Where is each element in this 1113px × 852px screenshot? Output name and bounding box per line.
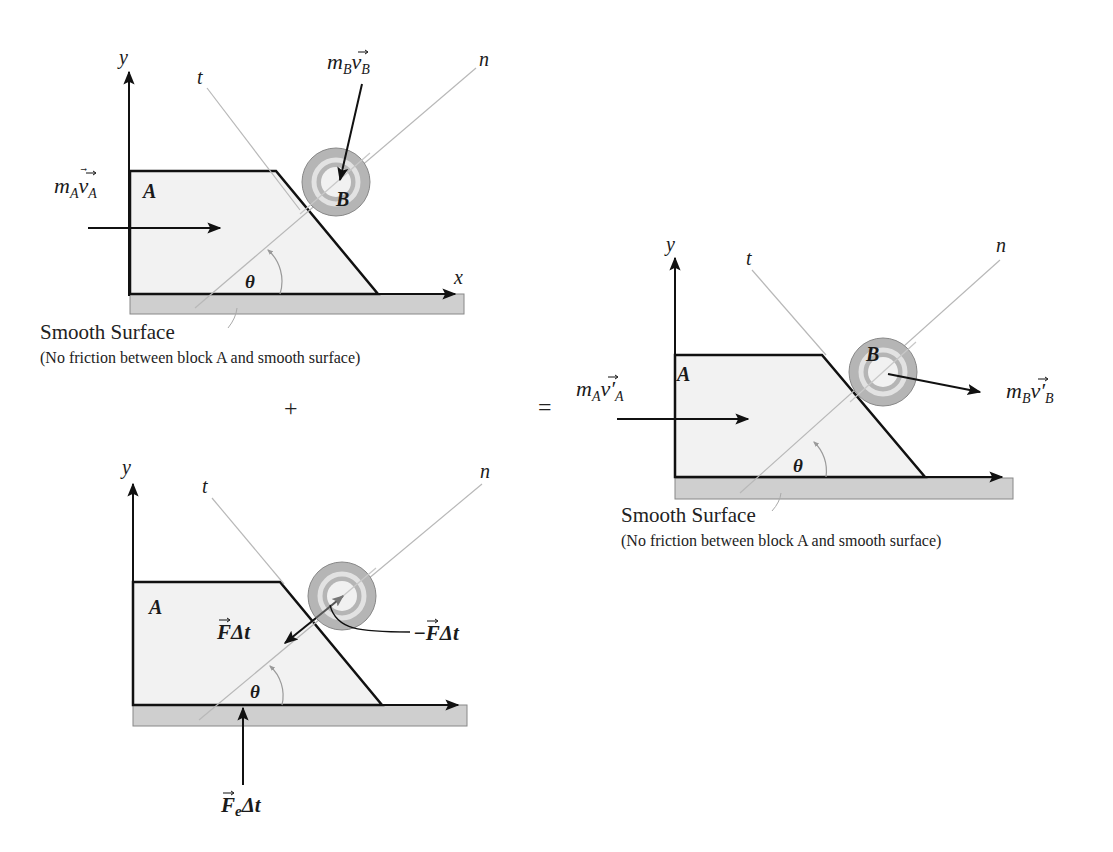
x-axis-label: x xyxy=(453,266,463,288)
momentum-a-label: mAvA xyxy=(54,173,97,201)
t-axis-line xyxy=(212,498,284,584)
t-axis-label: t xyxy=(746,247,752,269)
y-axis-label: y xyxy=(117,46,128,69)
theta-label: θ xyxy=(245,271,255,292)
momentum-a-prime-label: mAv′A xyxy=(576,376,624,404)
n-axis-label: n xyxy=(480,460,490,482)
momentum-b-label: mBvB xyxy=(327,49,370,77)
t-axis-line xyxy=(752,270,826,355)
smooth-surface xyxy=(133,705,467,726)
plus-operator: + xyxy=(284,395,298,421)
panel-before: y x t n A B θ mAvA ⃗ mBvB Smooth Surface… xyxy=(40,46,489,367)
theta-label: θ xyxy=(250,681,260,702)
impulse-on-b-label: −FΔt xyxy=(413,621,460,645)
panel-after: y t n A B θ mAv′A mBv′B Smooth Surface (… xyxy=(576,233,1054,550)
surface-note: (No friction between block A and smooth … xyxy=(40,349,360,367)
t-axis-label: t xyxy=(202,475,208,497)
equals-operator: = xyxy=(538,394,552,420)
n-axis-label: n xyxy=(479,48,489,70)
y-axis-label: y xyxy=(120,456,131,479)
momentum-b-prime-label: mBv′B xyxy=(1006,378,1054,406)
ball-b-label: B xyxy=(865,343,879,365)
smooth-surface xyxy=(675,478,1013,499)
block-a-label: A xyxy=(141,180,156,202)
impulse-on-a-label: FΔt xyxy=(216,620,251,644)
y-axis-label: y xyxy=(664,233,675,256)
vector-arrow-icon: ⃗ xyxy=(80,168,87,171)
impulse-momentum-diagram: y x t n A B θ mAvA ⃗ mBvB Smooth Surface… xyxy=(0,0,1113,852)
surface-note: (No friction between block A and smooth … xyxy=(621,532,941,550)
theta-label: θ xyxy=(793,455,803,476)
surface-label: Smooth Surface xyxy=(40,320,175,344)
block-a-label: A xyxy=(675,363,690,385)
t-axis-label: t xyxy=(197,66,203,88)
panel-impulse: y t n A θ FΔt −FΔt FeΔt xyxy=(120,456,490,819)
surface-label: Smooth Surface xyxy=(621,503,756,527)
external-impulse-label: FeΔt xyxy=(220,793,262,819)
smooth-surface xyxy=(130,294,464,314)
n-axis-label: n xyxy=(996,234,1006,256)
block-a-label: A xyxy=(147,596,162,618)
ball-b-label: B xyxy=(335,188,349,210)
